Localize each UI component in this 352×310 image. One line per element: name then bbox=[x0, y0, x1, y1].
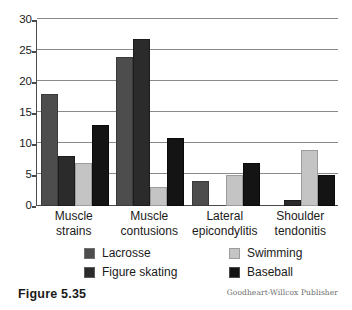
bar bbox=[318, 175, 335, 206]
x-axis-category-label: Lateralepicondylitis bbox=[187, 209, 263, 238]
y-axis-tick-mark bbox=[32, 206, 36, 208]
x-axis-category-label: Musclecontusions bbox=[112, 209, 188, 238]
gridline bbox=[37, 18, 338, 19]
y-axis-tick-label: 20 bbox=[8, 76, 32, 88]
legend-color-swatch bbox=[229, 267, 240, 278]
bar bbox=[75, 163, 92, 206]
bar bbox=[133, 39, 150, 206]
legend-color-swatch bbox=[84, 248, 95, 259]
figure-caption: Figure 5.35 bbox=[18, 287, 86, 301]
y-axis-tick-label: 0 bbox=[8, 200, 32, 212]
legend-item-label: Swimming bbox=[247, 246, 302, 260]
legend-item[interactable]: Lacrosse bbox=[84, 246, 151, 260]
x-axis-label-line: epicondylitis bbox=[187, 224, 263, 239]
x-axis-label-line: strains bbox=[36, 224, 112, 239]
bar bbox=[116, 57, 133, 206]
chart-legend: LacrosseSwimmingFigure skatingBaseball bbox=[84, 246, 334, 282]
x-axis-category-label: Musclestrains bbox=[36, 209, 112, 238]
y-axis-tick-label: 25 bbox=[8, 45, 32, 57]
bar bbox=[192, 181, 209, 206]
bar bbox=[226, 175, 243, 206]
publisher-credit: Goodheart-Willcox Publisher bbox=[227, 288, 338, 297]
x-axis-label-line: Muscle bbox=[36, 209, 112, 224]
bar bbox=[243, 163, 260, 206]
bar bbox=[284, 200, 301, 206]
bar-group bbox=[267, 20, 335, 206]
bar-group bbox=[192, 20, 260, 206]
legend-item-label: Lacrosse bbox=[102, 246, 151, 260]
bar-group bbox=[116, 20, 184, 206]
bar bbox=[58, 156, 75, 206]
x-axis-label-line: contusions bbox=[112, 224, 188, 239]
bar-chart: 051015202530 MusclestrainsMusclecontusio… bbox=[0, 0, 352, 216]
x-axis-category-label: Shouldertendonitis bbox=[263, 209, 339, 238]
bars-layer bbox=[36, 20, 338, 206]
bar bbox=[301, 150, 318, 206]
x-axis-label-line: Shoulder bbox=[263, 209, 339, 224]
x-axis-label-line: Muscle bbox=[112, 209, 188, 224]
bar bbox=[92, 125, 109, 206]
bar-group bbox=[41, 20, 109, 206]
figure-container: 051015202530 MusclestrainsMusclecontusio… bbox=[0, 0, 352, 310]
legend-item[interactable]: Baseball bbox=[229, 265, 293, 279]
bar bbox=[167, 138, 184, 206]
y-axis-tick-label: 30 bbox=[8, 14, 32, 26]
y-axis-tick-label: 5 bbox=[8, 169, 32, 181]
x-axis-category-labels: MusclestrainsMusclecontusionsLateralepic… bbox=[36, 209, 338, 245]
x-axis-label-line: Lateral bbox=[187, 209, 263, 224]
legend-item[interactable]: Figure skating bbox=[84, 265, 177, 279]
y-axis-tick-label: 10 bbox=[8, 138, 32, 150]
legend-item-label: Figure skating bbox=[102, 265, 177, 279]
bar bbox=[150, 187, 167, 206]
legend-color-swatch bbox=[229, 248, 240, 259]
x-axis-label-line: tendonitis bbox=[263, 224, 339, 239]
legend-color-swatch bbox=[84, 267, 95, 278]
legend-item-label: Baseball bbox=[247, 265, 293, 279]
legend-item[interactable]: Swimming bbox=[229, 246, 302, 260]
bar bbox=[41, 94, 58, 206]
y-axis-tick-label: 15 bbox=[8, 107, 32, 119]
